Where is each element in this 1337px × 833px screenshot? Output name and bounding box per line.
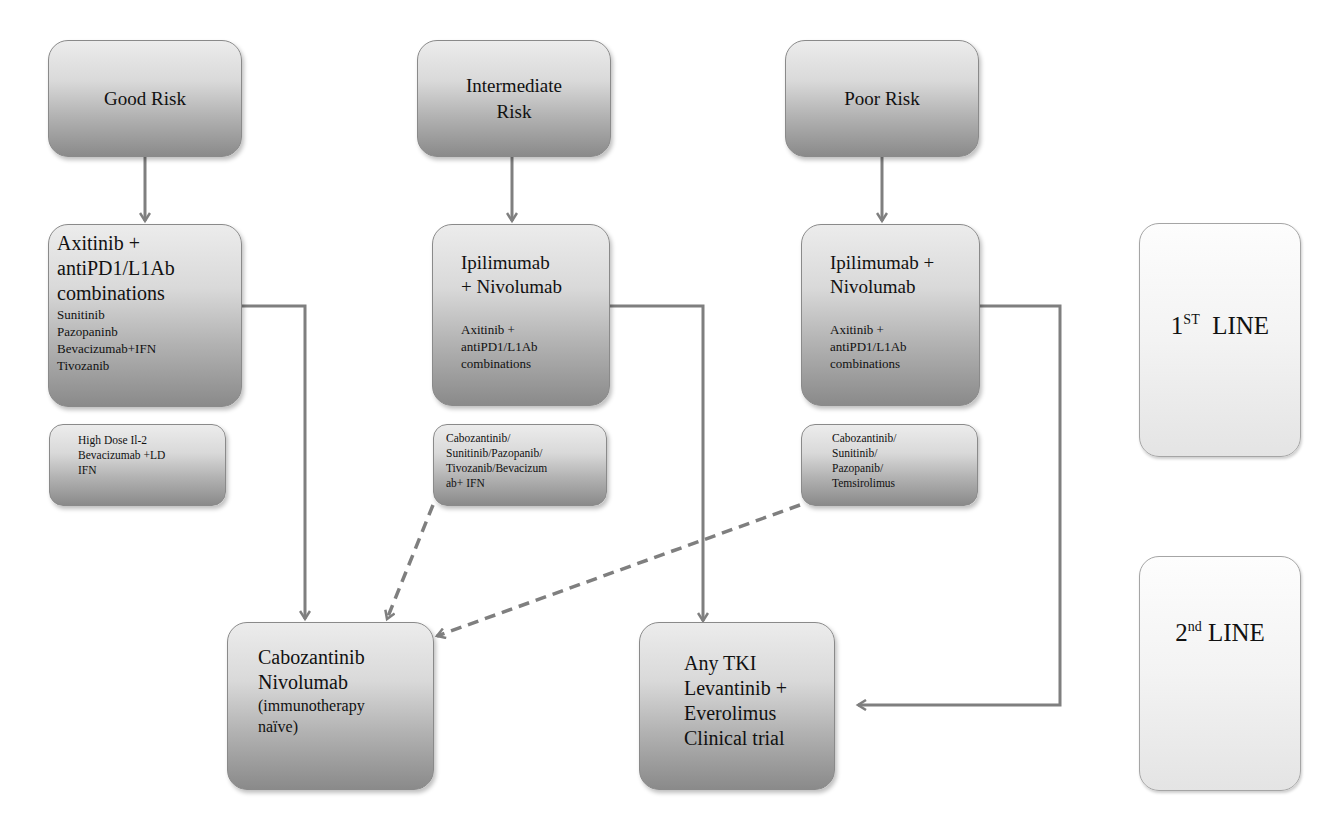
intermediate-first-line-secondary: Axitinib + antiPD1/L1Ab combinations: [461, 321, 593, 372]
first-line-label: 1ST LINE: [1171, 312, 1269, 340]
good-alternatives-box: High Dose Il-2 Bevacizumab +LD IFN: [49, 424, 226, 506]
first-line-label-box: 1ST LINE: [1139, 223, 1301, 457]
intermediate-first-line-primary: Ipilimumab + Nivolumab: [461, 251, 593, 299]
second-line-label: 2nd LINE: [1175, 619, 1265, 647]
good-first-line-box: Axitinib + antiPD1/L1Ab combinations Sun…: [48, 224, 242, 407]
intermediate-first-line-box: Ipilimumab + Nivolumab Axitinib + antiPD…: [432, 224, 610, 406]
poor-first-line-box: Ipilimumab + Nivolumab Axitinib + antiPD…: [801, 224, 980, 406]
cabozantinib-nivolumab-text: Cabozantinib Nivolumab: [258, 645, 423, 695]
intermediate-risk-label: Intermediate Risk: [466, 73, 562, 125]
poor-first-line-secondary: Axitinib + antiPD1/L1Ab combinations: [830, 321, 971, 372]
poor-risk-box: Poor Risk: [785, 40, 979, 157]
good-first-line-primary: Axitinib + antiPD1/L1Ab combinations: [57, 231, 233, 306]
any-tki-text: Any TKI Levantinib + Everolimus Clinical…: [684, 651, 826, 751]
dashed-arrow-intermediate-alt-to-cabozantinib: [387, 505, 433, 619]
treatment-flowchart: Good Risk Intermediate Risk Poor Risk Ax…: [0, 0, 1337, 833]
cabozantinib-nivolumab-box: Cabozantinib Nivolumab (immunotherapy na…: [227, 622, 434, 790]
poor-risk-label: Poor Risk: [844, 86, 920, 112]
arrow-good-to-cabozantinib-nivolumab: [242, 306, 305, 619]
intermediate-risk-box: Intermediate Risk: [417, 40, 611, 157]
immunotherapy-naive-note: (immunotherapy naïve): [258, 695, 423, 737]
any-tki-box: Any TKI Levantinib + Everolimus Clinical…: [639, 622, 835, 790]
intermediate-alternatives-box: Cabozantinib/ Sunitinib/Pazopanib/ Tivoz…: [433, 424, 607, 506]
arrow-intermediate-to-any-tki: [610, 306, 703, 621]
good-first-line-secondary: Sunitinib Pazopaninb Bevacizumab+IFN Tiv…: [57, 306, 233, 374]
poor-alternatives-box: Cabozantinib/ Sunitinib/ Pazopanib/ Tems…: [801, 424, 978, 506]
second-line-label-box: 2nd LINE: [1139, 556, 1301, 791]
dashed-arrow-poor-alt-to-cabozantinib: [437, 505, 800, 636]
good-risk-label: Good Risk: [104, 86, 186, 112]
good-risk-box: Good Risk: [48, 40, 242, 157]
good-alternatives-text: High Dose Il-2 Bevacizumab +LD IFN: [78, 433, 225, 478]
poor-first-line-primary: Ipilimumab + Nivolumab: [830, 251, 971, 299]
intermediate-alternatives-text: Cabozantinib/ Sunitinib/Pazopanib/ Tivoz…: [446, 431, 606, 491]
poor-alternatives-text: Cabozantinib/ Sunitinib/ Pazopanib/ Tems…: [832, 431, 977, 491]
